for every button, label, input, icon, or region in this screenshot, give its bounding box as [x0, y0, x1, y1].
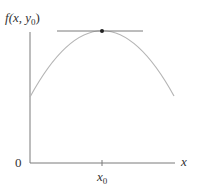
- y-label-close: ): [36, 10, 40, 25]
- x0-label: x0: [97, 169, 107, 186]
- curve: [30, 31, 174, 97]
- x0-sub: 0: [103, 176, 108, 186]
- x-axis-label: x: [181, 154, 187, 170]
- y-axis-label: f(x, y0): [5, 10, 40, 27]
- function-plot: [0, 0, 198, 188]
- origin-label: 0: [15, 155, 22, 171]
- y-label-args: (x, y: [9, 10, 31, 25]
- maximum-point: [100, 29, 104, 33]
